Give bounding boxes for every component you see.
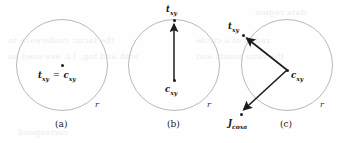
panel-a-label-t-equals-c: txy = cxy [38, 70, 76, 82]
panel-b-radius-label: r [207, 100, 211, 109]
panel-c-circle [241, 19, 333, 111]
c-subscript: xy [296, 75, 303, 82]
panel-b-center-point [173, 79, 176, 82]
panel-b-circle [128, 19, 220, 111]
panel-a-center-point [61, 64, 64, 67]
panel-c-center-point [286, 69, 289, 72]
panel-b-target-point [173, 19, 176, 22]
panel-b-caption: (b) [167, 119, 180, 129]
equals-sign: = [49, 70, 64, 80]
panel-c-caption: (c) [280, 119, 292, 129]
panel-b: txy cxy r (b) [115, 0, 228, 143]
figure-panels-abc: the tactic conference to with and tog. 1… [0, 0, 343, 143]
panel-a-caption: (a) [55, 119, 67, 129]
panel-c: txy cxy Jcoxa r (c) [228, 0, 343, 143]
c-subscript: xy [69, 75, 76, 82]
panel-c-coxa-point [240, 113, 243, 116]
t-subscript: xy [170, 9, 177, 16]
panel-a: txy = cxy r (a) [0, 0, 115, 143]
panel-c-label-t-xy: txy [228, 21, 239, 33]
panel-c-label-j-coxa: Jcoxa [228, 118, 247, 130]
panel-c-radius-label: r [320, 100, 324, 109]
t-subscript: xy [42, 75, 49, 82]
panel-c-label-c-xy: cxy [291, 70, 303, 82]
j-subscript: coxa [232, 123, 247, 130]
t-subscript: xy [232, 26, 239, 33]
c-subscript: xy [170, 89, 177, 96]
panel-c-target-point [242, 34, 245, 37]
panel-b-label-c-xy: cxy [165, 84, 177, 96]
panel-a-radius-label: r [95, 100, 99, 109]
panel-b-label-t-xy: txy [166, 4, 177, 16]
